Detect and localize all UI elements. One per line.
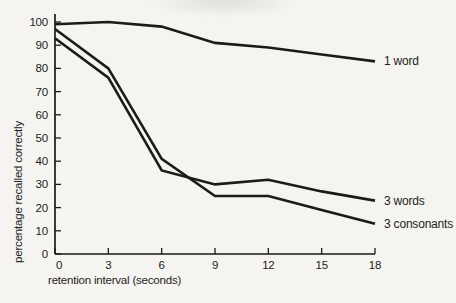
series-line-1-word: [55, 22, 375, 61]
y-tick-label: 20: [36, 202, 48, 214]
y-axis-title: percentage recalled correctly: [12, 121, 24, 263]
series-line-3-words: [55, 38, 375, 200]
x-tick-label: 6: [159, 259, 165, 271]
y-tick-label: 30: [36, 178, 48, 190]
series-label-3-words: 3 words: [384, 194, 425, 208]
y-tick-label: 100: [29, 16, 48, 28]
y-tick-label: 90: [36, 39, 48, 51]
x-tick-label: 12: [262, 259, 274, 271]
y-tick-label: 80: [36, 62, 48, 74]
x-tick-label: 3: [105, 259, 111, 271]
series-label-3-consonants: 3 consonants: [384, 217, 453, 231]
y-tick-label: 0: [42, 248, 48, 260]
x-tick-label: 18: [369, 259, 381, 271]
series-label-1-word: 1 word: [384, 54, 419, 68]
y-tick-label: 60: [36, 109, 48, 121]
series-line-3-consonants: [55, 29, 375, 224]
memory-retention-chart-figure: 010203040506070809010003691215181 word3 …: [0, 0, 456, 303]
x-axis-title: retention interval (seconds): [48, 274, 181, 286]
x-tick-label: 9: [212, 259, 218, 271]
line-chart: 010203040506070809010003691215181 word3 …: [0, 0, 456, 303]
x-tick-label: 0: [56, 259, 62, 271]
x-tick-label: 15: [315, 259, 327, 271]
y-tick-label: 70: [36, 86, 48, 98]
y-tick-label: 10: [36, 225, 48, 237]
y-tick-label: 40: [36, 155, 48, 167]
y-tick-label: 50: [36, 132, 48, 144]
